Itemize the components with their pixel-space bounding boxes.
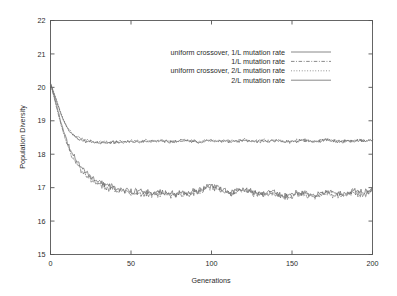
data-series <box>51 83 373 199</box>
y-tick-label: 20 <box>38 83 46 92</box>
series-line <box>51 83 373 198</box>
x-axis-tick-labels: 050100150200 <box>49 259 379 268</box>
x-axis-title: Generations <box>191 276 231 285</box>
y-tick-label: 15 <box>38 250 46 259</box>
x-tick-label: 200 <box>367 259 379 268</box>
y-tick-label: 16 <box>38 217 46 226</box>
x-tick-label: 0 <box>49 259 53 268</box>
y-axis-title: Population Diversity <box>18 105 27 169</box>
legend-label: uniform crossover, 1/L mutation rate <box>171 48 285 57</box>
y-tick-label: 22 <box>38 16 46 25</box>
series-line <box>51 84 373 200</box>
y-axis-tick-labels: 1516171819202122 <box>38 16 46 259</box>
y-tick-label: 17 <box>38 183 46 192</box>
x-tick-label: 50 <box>127 259 135 268</box>
series-line <box>51 84 373 144</box>
chart-svg: 1516171819202122 050100150200 uniform cr… <box>0 0 397 296</box>
x-tick-label: 100 <box>206 259 218 268</box>
legend-label: 2/L mutation rate <box>231 76 285 85</box>
x-tick-label: 150 <box>286 259 298 268</box>
population-diversity-chart: 1516171819202122 050100150200 uniform cr… <box>0 0 397 296</box>
legend-label: uniform crossover, 2/L mutation rate <box>171 66 285 75</box>
y-tick-label: 19 <box>38 116 46 125</box>
series-line <box>51 83 373 143</box>
legend: uniform crossover, 1/L mutation rate1/L … <box>171 48 331 85</box>
y-tick-label: 18 <box>38 150 46 159</box>
legend-label: 1/L mutation rate <box>231 57 285 66</box>
y-tick-label: 21 <box>38 50 46 59</box>
